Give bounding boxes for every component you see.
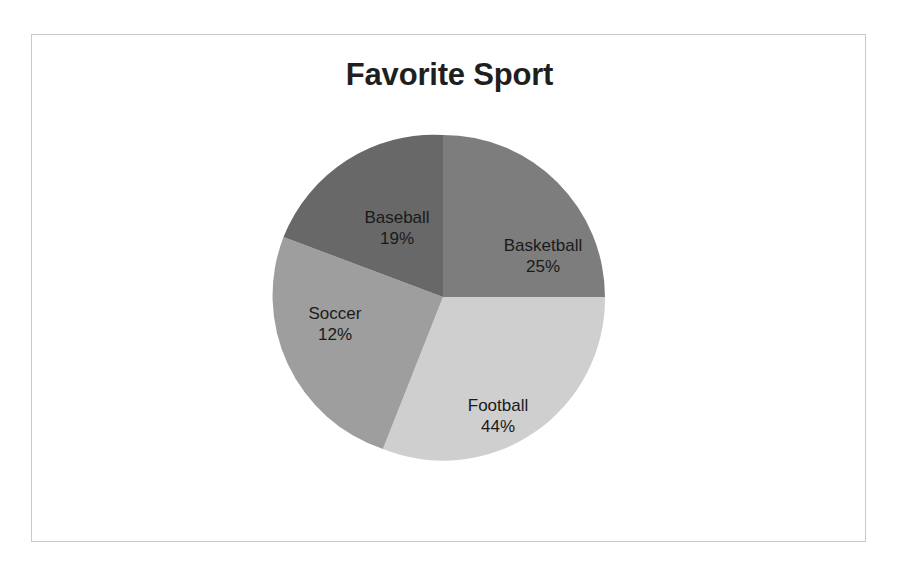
pie-slice-basketball[interactable] [443, 135, 605, 297]
chart-frame: Favorite Sport Basketball 25% Baseball 1… [31, 34, 866, 542]
pie-chart-svg [268, 122, 618, 472]
pie-chart-area: Basketball 25% Baseball 19% Soccer 12% F… [32, 35, 867, 543]
